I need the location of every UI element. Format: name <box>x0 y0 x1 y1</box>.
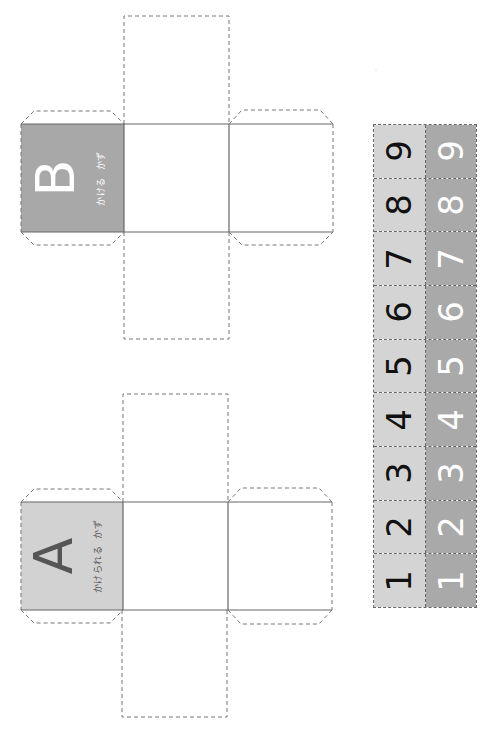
strip-row-7: 7 7 <box>374 231 476 285</box>
strip-cell-left: 8 <box>374 179 426 232</box>
digit: 2 <box>434 516 468 538</box>
face-b-caption-box: かける かず <box>88 124 112 232</box>
digit: 4 <box>434 409 468 431</box>
strip-cell-left: 1 <box>374 554 426 607</box>
face-b-caption-right: かず <box>96 151 106 170</box>
face-a-caption-left: かけられる <box>94 545 104 593</box>
face-a-letter: A <box>27 538 81 575</box>
digit: 5 <box>382 355 416 377</box>
number-strip: 9 9 8 8 7 7 6 6 5 5 4 4 3 3 2 2 1 1 <box>373 124 477 608</box>
strip-row-9: 9 9 <box>374 125 476 178</box>
strip-cell-right: 9 <box>426 125 477 178</box>
digit: 7 <box>382 248 416 270</box>
strip-cell-left: 7 <box>374 232 426 285</box>
digit: 4 <box>382 409 416 431</box>
face-a-caption: かけられる かず <box>92 519 105 592</box>
face-a-letter-box: A <box>21 502 87 610</box>
face-b-caption: かける かず <box>94 151 107 205</box>
strip-row-8: 8 8 <box>374 178 476 232</box>
digit: 2 <box>382 516 416 538</box>
strip-cell-right: 6 <box>426 286 477 339</box>
strip-cell-right: 1 <box>426 554 477 607</box>
strip-cell-right: 4 <box>426 393 477 446</box>
strip-row-1: 1 1 <box>374 553 476 607</box>
speck <box>375 69 376 70</box>
strip-cell-left: 4 <box>374 393 426 446</box>
strip-cell-right: 5 <box>426 340 477 393</box>
strip-cell-left: 9 <box>374 125 426 178</box>
strip-cell-right: 8 <box>426 179 477 232</box>
digit: 3 <box>382 463 416 485</box>
strip-cell-right: 7 <box>426 232 477 285</box>
digit: 3 <box>434 463 468 485</box>
strip-row-5: 5 5 <box>374 339 476 393</box>
digit: 6 <box>434 302 468 324</box>
face-b-letter: B <box>29 159 83 196</box>
digit: 6 <box>382 302 416 324</box>
digit: 9 <box>434 141 468 163</box>
strip-cell-left: 5 <box>374 340 426 393</box>
face-b-caption-left: かける <box>96 177 106 206</box>
digit: 8 <box>382 194 416 216</box>
strip-cell-right: 2 <box>426 501 477 554</box>
strip-row-3: 3 3 <box>374 446 476 500</box>
digit: 5 <box>434 355 468 377</box>
strip-cell-left: 6 <box>374 286 426 339</box>
strip-cell-left: 3 <box>374 447 426 500</box>
digit: 1 <box>382 570 416 592</box>
strip-row-4: 4 4 <box>374 392 476 446</box>
digit: 9 <box>382 141 416 163</box>
strip-cell-left: 2 <box>374 501 426 554</box>
strip-row-2: 2 2 <box>374 500 476 554</box>
face-b-letter-box: B <box>21 124 91 232</box>
strip-row-6: 6 6 <box>374 285 476 339</box>
digit: 1 <box>434 570 468 592</box>
strip-cell-right: 3 <box>426 447 477 500</box>
face-a-caption-box: かけられる かず <box>86 502 110 610</box>
face-a-caption-right: かず <box>94 519 104 538</box>
digit: 8 <box>434 194 468 216</box>
digit: 7 <box>434 248 468 270</box>
